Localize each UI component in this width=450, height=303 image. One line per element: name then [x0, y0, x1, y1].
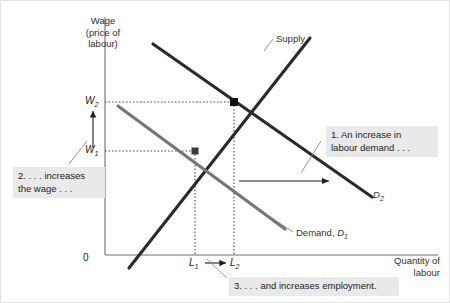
x-axis-title: Quantity of labour	[366, 255, 440, 278]
leader-line-callout-1	[301, 141, 321, 173]
figure-container: Wage (price of labour) Quantity of labou…	[0, 0, 450, 303]
y-axis-title-line-2: (price of	[71, 27, 135, 39]
tick-label-wage-1: W1	[85, 144, 98, 160]
demand-curve-1-label-text: Demand,	[296, 227, 337, 238]
supply-curve	[129, 38, 310, 268]
tick-label-qty-2-subscript: 2	[236, 263, 240, 270]
demand-curve-2-label-symbol: D	[373, 189, 380, 200]
origin-label: 0	[83, 252, 89, 264]
leader-line-supply	[264, 39, 273, 51]
y-axis-title-line-3: labour)	[71, 38, 135, 50]
demand-curve-2	[153, 44, 372, 197]
tick-label-qty-1-subscript: 1	[195, 263, 199, 270]
demand-curve-1	[118, 106, 285, 229]
demand-curve-1-label-subscript: 1	[344, 233, 348, 240]
callout-demand-increase: 1. An increase in labour demand . . .	[326, 126, 438, 157]
demand-curve-2-label-subscript: 2	[380, 195, 384, 202]
tick-label-qty-1: L1	[189, 257, 198, 273]
callout-employment-increase: 3. . . . and increases employment.	[229, 277, 399, 296]
tick-label-wage-2: W2	[85, 95, 98, 111]
y-axis-title-line-1: Wage	[71, 15, 135, 27]
supply-curve-label: Supply	[276, 33, 305, 45]
tick-label-qty-2: L2	[230, 257, 239, 273]
demand-curve-1-label: Demand, D1	[296, 227, 348, 242]
leader-line-demand1	[272, 218, 293, 232]
tick-label-wage-2-subscript: 2	[94, 101, 98, 108]
demand-curve-2-label: D2	[373, 189, 384, 204]
y-axis-title: Wage (price of labour)	[71, 15, 135, 50]
equilibrium-point-2	[230, 98, 238, 106]
leader-line-callout-3	[207, 259, 227, 278]
callout-wage-increase: 2. . . . increases the wage . . .	[13, 167, 105, 198]
equilibrium-point-1	[192, 148, 199, 155]
tick-label-wage-1-subscript: 1	[94, 150, 98, 157]
x-axis-title-line-1: Quantity of	[366, 255, 440, 267]
